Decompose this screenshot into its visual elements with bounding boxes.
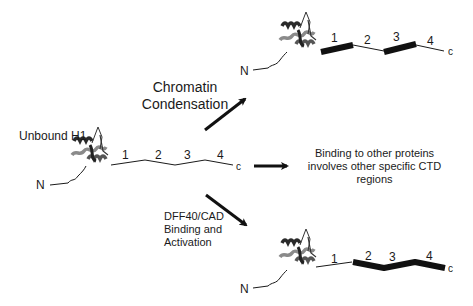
top-h1-structure xyxy=(253,12,444,70)
label-line-2: involves other specific CTD xyxy=(292,160,457,173)
bottom-n-terminus: N xyxy=(240,283,249,295)
label-line-3: regions xyxy=(292,173,457,186)
bottom-c-terminus: c xyxy=(448,264,453,274)
top-n-terminus: N xyxy=(240,65,249,77)
unbound-h1-label: Unbound H1 xyxy=(19,129,86,143)
bottom-h1-structure xyxy=(253,229,445,288)
unbound-n-terminus: N xyxy=(36,179,45,191)
bottom-region-2: 2 xyxy=(365,250,372,262)
bottom-region-4: 4 xyxy=(426,250,433,262)
other-proteins-label: Binding to other proteins involves other… xyxy=(292,147,457,186)
label-line-1: Binding to other proteins xyxy=(292,147,457,160)
unbound-region-3: 3 xyxy=(184,149,191,161)
top-region-2: 2 xyxy=(364,34,371,46)
top-c-terminus: c xyxy=(448,47,453,57)
label-line-1: Chromatin xyxy=(130,79,240,96)
bottom-region-1: 1 xyxy=(331,253,338,265)
top-region-3: 3 xyxy=(393,31,400,43)
unbound-region-4: 4 xyxy=(217,149,224,161)
top-region-1: 1 xyxy=(331,32,338,44)
unbound-region-1: 1 xyxy=(122,149,129,161)
unbound-c-terminus: c xyxy=(236,162,241,172)
chromatin-condensation-label: Chromatin Condensation xyxy=(130,79,240,113)
top-region-4: 4 xyxy=(427,35,434,47)
dff40-binding-label: DFF40/CAD Binding and Activation xyxy=(164,210,224,249)
unbound-region-2: 2 xyxy=(155,149,162,161)
label-line-2: Binding and xyxy=(164,223,224,236)
bottom-region-3: 3 xyxy=(389,251,396,263)
label-line-1: DFF40/CAD xyxy=(164,210,224,223)
label-line-3: Activation xyxy=(164,236,224,249)
label-line-2: Condensation xyxy=(130,96,240,113)
